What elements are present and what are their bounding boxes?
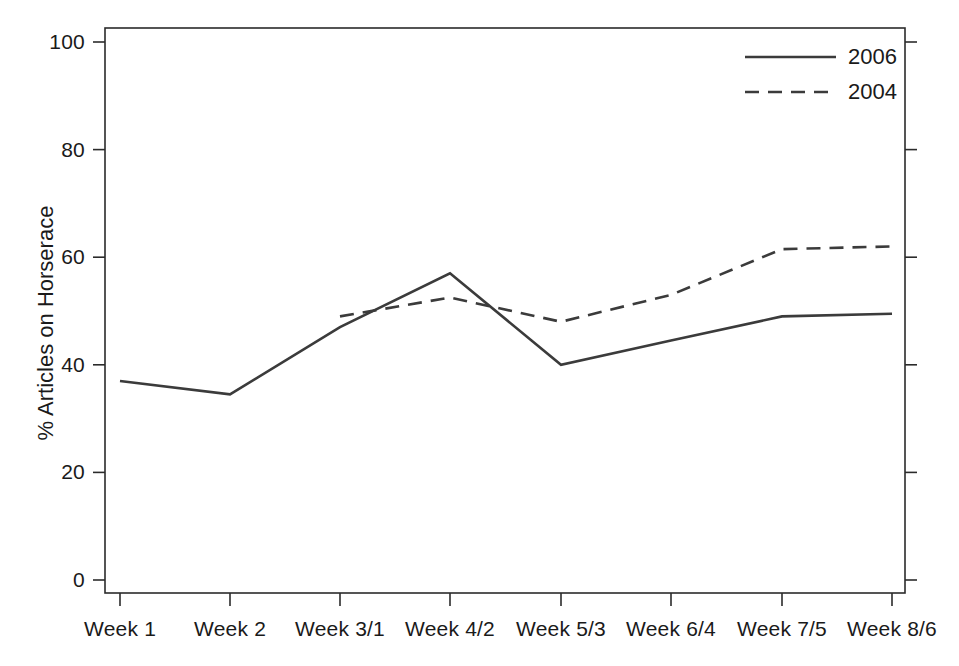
x-tick-label-4: Week 5/3 [516,617,606,641]
chart-plot-area [0,0,959,666]
x-tick-label-3: Week 4/2 [405,617,495,641]
series-group [120,246,892,394]
x-tick-label-7: Week 8/6 [847,617,937,641]
x-tick-label-2: Week 3/1 [295,617,385,641]
x-tick-label-5: Week 6/4 [626,617,716,641]
y-tick-label-100: 100 [0,30,85,54]
y-tick-label-40: 40 [0,353,85,377]
series-line-2006 [120,273,892,394]
x-tick-label-6: Week 7/5 [737,617,827,641]
y-tick-label-60: 60 [0,245,85,269]
y-axis-label: % Articles on Horserace [33,173,59,473]
y-tick-label-20: 20 [0,460,85,484]
series-line-2004 [340,246,892,321]
y-tick-label-0: 0 [0,568,85,592]
x-tick-label-1: Week 2 [194,617,266,641]
y-tick-label-80: 80 [0,138,85,162]
legend-label-2006: 2006 [848,44,897,70]
legend-label-2004: 2004 [848,79,897,105]
y-tick-group [93,42,917,580]
legend-marks-group [745,57,836,92]
chart-figure: % Articles on Horserace 020406080100 Wee… [0,0,959,666]
x-tick-group [120,593,892,606]
x-tick-label-0: Week 1 [84,617,156,641]
